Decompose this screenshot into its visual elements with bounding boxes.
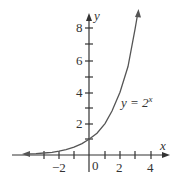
y-tick-label: 2 [76,116,83,131]
y-axis-arrow-icon [86,13,92,21]
curve-left-arrow-icon [22,151,30,157]
x-tick-label: −2 [52,160,66,175]
curve-label: y = 2x [119,94,153,110]
y-tick-label: 6 [76,53,83,68]
x-axis-label: x [159,138,166,153]
y-tick-label: 8 [76,20,83,35]
y-tick-label: 4 [76,85,83,100]
x-tick-label: 2 [116,160,123,175]
origin-label: 0 [92,158,99,173]
curve-up-arrow-icon [135,9,141,18]
y-axis-label: y [92,8,100,23]
x-tick-label: 4 [147,160,154,175]
exponential-graph: −2 0 2 4 2 4 6 8 x y y = 2x [0,0,181,184]
